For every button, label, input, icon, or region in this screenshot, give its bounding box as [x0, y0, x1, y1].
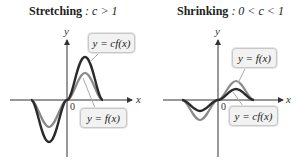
- graphs: [0, 0, 300, 164]
- origin-label: 0: [70, 101, 75, 112]
- y-axis-label: y: [64, 25, 69, 37]
- x-axis-label: x: [136, 93, 141, 105]
- x-axis-label: x: [286, 93, 291, 105]
- stretching-graph: [10, 40, 132, 157]
- label-cf-x: y = cf(x): [229, 106, 278, 126]
- label-cf-x: y = cf(x): [88, 33, 135, 53]
- label-f-x: y = f(x): [232, 48, 277, 68]
- label-f-x: y = f(x): [80, 108, 127, 128]
- origin-label: 0: [221, 101, 226, 112]
- y-axis-label: y: [215, 25, 220, 37]
